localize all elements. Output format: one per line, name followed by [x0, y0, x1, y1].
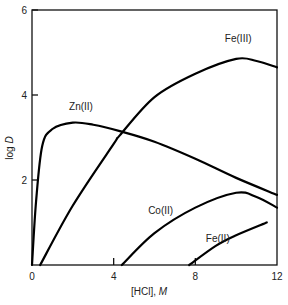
- curve-label-feiii: Fe(III): [225, 33, 252, 44]
- y-tick-label: 2: [21, 175, 27, 186]
- curve-labels: Zn(II)Fe(III)Co(II)Fe(II): [69, 33, 251, 244]
- distribution-chart: 24604812 Zn(II)Fe(III)Co(II)Fe(II) [HCl]…: [0, 0, 288, 305]
- x-tick-label: 0: [29, 271, 35, 282]
- axis-ticks: 24604812: [21, 5, 283, 283]
- plot-frame: [32, 10, 277, 265]
- x-tick-label: 12: [271, 271, 283, 282]
- plot-axes: [32, 10, 277, 265]
- y-axis-label: log D: [4, 136, 15, 159]
- curve-label-feii: Fe(II): [206, 233, 230, 244]
- curve-label-znii: Zn(II): [69, 101, 93, 112]
- curves: [32, 58, 277, 265]
- x-tick-label: 8: [193, 271, 199, 282]
- curve-znii: [32, 122, 277, 265]
- curve-feii: [189, 223, 267, 266]
- curve-label-coii: Co(II): [148, 205, 173, 216]
- x-tick-label: 4: [111, 271, 117, 282]
- x-axis-label: [HCl], M: [131, 286, 168, 297]
- y-tick-label: 6: [21, 5, 27, 16]
- y-tick-label: 4: [21, 90, 27, 101]
